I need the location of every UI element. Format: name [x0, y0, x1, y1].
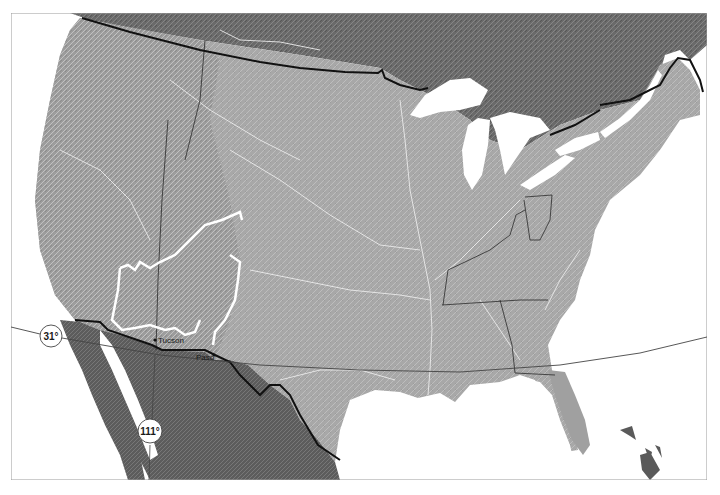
meridian-label: 111° [140, 426, 160, 437]
relief-map: 31° 111° Tucson Paso [0, 0, 720, 495]
map-content [11, 13, 707, 480]
city-label-el-paso: Paso [196, 353, 215, 362]
city-dot [153, 338, 156, 341]
place-tucson: Tucson [153, 336, 184, 345]
latitude-label: 31° [43, 331, 58, 342]
city-label-tucson: Tucson [158, 336, 184, 345]
latitude-31-marker: 31° [40, 325, 62, 347]
place-el-paso: Paso [196, 353, 216, 362]
meridian-111-marker: 111° [138, 419, 162, 443]
map-canvas: 31° 111° Tucson Paso [0, 0, 720, 495]
